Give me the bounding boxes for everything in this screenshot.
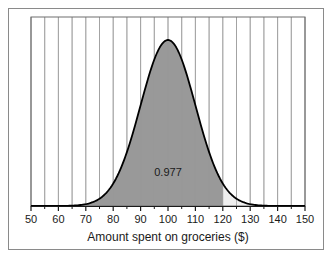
x-axis-tick-label: 70 [80,213,92,225]
x-axis-tick-label: 80 [107,213,119,225]
x-axis-tick-group [31,206,305,211]
x-axis-tick-label: 50 [25,213,37,225]
x-axis-tick-label: 130 [241,213,259,225]
x-axis-tick-label: 120 [214,213,232,225]
x-axis-tick-label: 90 [134,213,146,225]
x-axis-tick-label: 100 [159,213,177,225]
chart-figure: 5060708090100110120130140150 0.977 Amoun… [0,0,334,261]
x-axis-tick-label-group: 5060708090100110120130140150 [25,213,314,225]
x-axis-tick-label: 60 [52,213,64,225]
x-axis-tick-label: 140 [268,213,286,225]
x-axis-tick-label: 150 [296,213,314,225]
normal-distribution-chart: 5060708090100110120130140150 0.977 Amoun… [0,0,334,261]
x-axis-tick-label: 110 [187,213,205,225]
probability-label: 0.977 [154,166,182,178]
x-axis-title: Amount spent on groceries ($) [87,230,248,244]
